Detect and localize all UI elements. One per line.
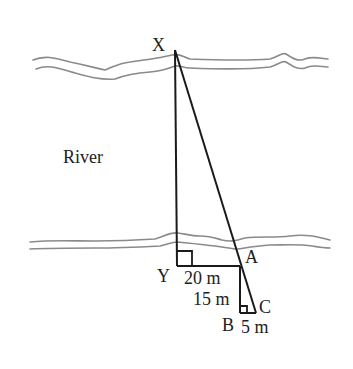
point-label-a: A — [245, 247, 258, 267]
right-angle-marker-b — [240, 306, 247, 313]
bottom-river-bank — [30, 233, 330, 249]
measurement-ya: 20 m — [184, 268, 221, 288]
point-label-b: B — [222, 315, 234, 335]
point-label-y: Y — [157, 266, 170, 286]
measurement-bc: 5 m — [241, 317, 269, 337]
point-label-x: X — [152, 35, 165, 55]
right-angle-marker-y — [177, 251, 192, 266]
river-width-diagram: River X Y A B C 20 m 15 m 5 m — [0, 0, 353, 369]
point-label-c: C — [259, 297, 271, 317]
measurement-ab: 15 m — [193, 289, 230, 309]
river-label: River — [63, 147, 103, 167]
